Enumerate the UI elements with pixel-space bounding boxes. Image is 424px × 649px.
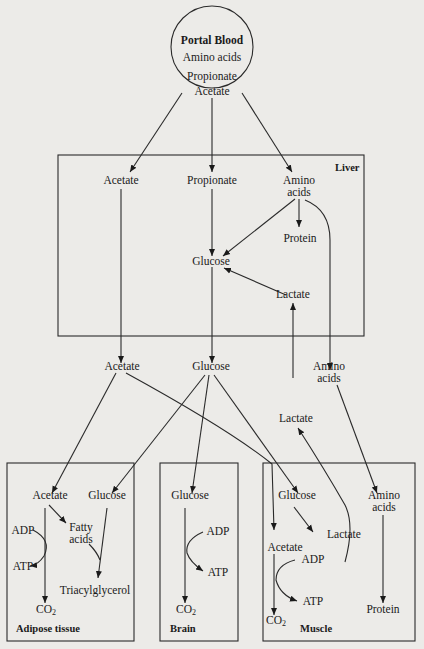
brain-adp: ADP [206,525,229,538]
blood-acetate: Acetate [104,360,139,373]
brain-atp: ATP [208,566,228,579]
muscle-amino-acids: Amino acids [362,489,406,513]
liver-acetate: Acetate [103,174,138,187]
adipose-triacylglycerol: Triacylglycerol [60,584,130,597]
muscle-protein: Protein [366,603,399,616]
adipose-co2: CO2 [36,603,56,619]
muscle-co2: CO2 [266,614,286,630]
adipose-fatty-acids: Fatty acids [63,521,99,545]
muscle-acetate: Acetate [267,541,302,554]
portal-propionate: Propionate [187,70,237,83]
brain-glucose: Glucose [171,489,209,502]
adipose-acetate: Acetate [32,489,67,502]
muscle-atp: ATP [303,595,323,608]
portal-amino-acids: Amino acids [183,51,241,64]
portal-acetate: Acetate [194,85,229,98]
muscle-title: Muscle [300,622,332,635]
adipose-glucose: Glucose [88,489,126,502]
liver-propionate: Propionate [187,174,237,187]
adipose-title: Adipose tissue [16,622,80,635]
brain-co2: CO2 [176,603,196,619]
adipose-atp: ATP [13,560,33,573]
liver-glucose: Glucose [192,255,230,268]
muscle-glucose: Glucose [278,489,316,502]
muscle-adp: ADP [301,553,324,566]
liver-protein: Protein [283,232,316,245]
blood-amino-acids: Amino acids [307,360,351,384]
liver-amino-acids: Amino acids [277,174,321,198]
blood-lactate: Lactate [279,412,313,425]
blood-glucose: Glucose [192,360,230,373]
liver-lactate: Lactate [276,288,310,301]
muscle-lactate: Lactate [327,528,361,541]
liver-title: Liver [335,161,360,174]
adipose-adp: ADP [11,524,34,537]
brain-title: Brain [170,622,196,635]
portal-blood-title: Portal Blood [181,34,243,47]
